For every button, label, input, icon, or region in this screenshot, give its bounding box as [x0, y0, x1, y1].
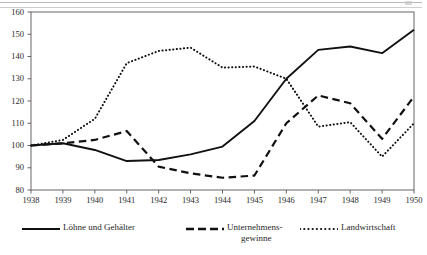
y-tick-label: 110	[4, 118, 24, 128]
legend-swatch-solid-icon	[22, 224, 60, 234]
x-tick-label: 1941	[111, 195, 143, 205]
y-tick-label: 140	[4, 51, 24, 61]
x-tick-label: 1943	[175, 195, 207, 205]
legend-swatch-dotted-icon	[300, 224, 338, 234]
legend-item-unternehmensgewinne: Unternehmens- gewinne	[186, 222, 282, 243]
axes-layer	[28, 12, 415, 194]
y-tick-label: 90	[4, 162, 24, 172]
series-line-unternehmensgewinne	[31, 95, 414, 177]
x-tick-label: 1950	[398, 195, 427, 205]
x-tick-label: 1942	[143, 195, 175, 205]
legend-label-unternehmensgewinne: Unternehmens- gewinne	[227, 222, 282, 243]
legend-item-landwirtschaft: Landwirtschaft	[300, 222, 395, 234]
series-layer	[31, 30, 414, 178]
x-tick-label: 1939	[47, 195, 79, 205]
y-tick-label: 80	[4, 185, 24, 195]
x-tick-label: 1948	[334, 195, 366, 205]
x-tick-label: 1947	[302, 195, 334, 205]
y-tick-label: 160	[4, 7, 24, 17]
series-line-loehne-und-gehaelter	[31, 30, 414, 161]
x-tick-label: 1944	[207, 195, 239, 205]
y-tick-label: 120	[4, 96, 24, 106]
x-tick-label: 1945	[238, 195, 270, 205]
scan-artifact-speck	[405, 1, 412, 5]
chart-legend: Löhne und Gehälter Unternehmens- gewinne…	[0, 218, 422, 255]
legend-label-line1: Unternehmens-	[227, 222, 282, 232]
y-tick-label: 100	[4, 140, 24, 150]
x-tick-label: 1940	[79, 195, 111, 205]
legend-swatch-dashed-icon	[186, 224, 224, 234]
legend-label-loehne-und-gehaelter: Löhne und Gehälter	[63, 222, 135, 233]
legend-label-line2: gewinne	[227, 233, 282, 244]
legend-item-loehne-und-gehaelter: Löhne und Gehälter	[22, 222, 135, 234]
x-tick-label: 1949	[366, 195, 398, 205]
series-line-landwirtschaft	[31, 48, 414, 157]
legend-label-landwirtschaft: Landwirtschaft	[341, 222, 395, 233]
y-tick-label: 130	[4, 73, 24, 83]
y-tick-label: 150	[4, 29, 24, 39]
plot-area: 8090100110120130140150160 19381939194019…	[0, 8, 422, 200]
scan-artifact-rule-top	[0, 2, 422, 3]
line-chart-svg	[0, 8, 422, 200]
x-tick-label: 1938	[15, 195, 47, 205]
x-tick-label: 1946	[270, 195, 302, 205]
plot-frame	[31, 12, 414, 190]
